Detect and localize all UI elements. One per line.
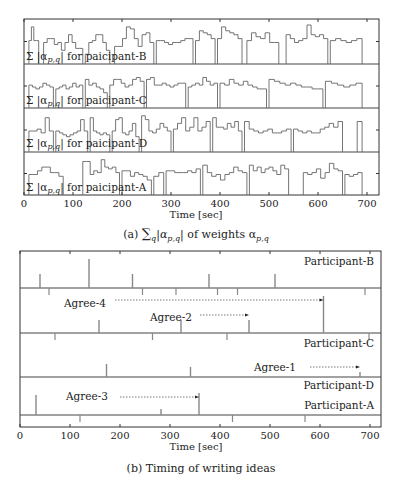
arrow-head-icon [245, 314, 249, 317]
step-series-participant-A [166, 169, 200, 195]
step-series-participant-A [345, 173, 362, 195]
step-series-participant-A [203, 165, 247, 195]
top-caption: (a) ∑q|αp,q| of weights αp,q [123, 226, 269, 243]
x-tick-label: 0 [21, 198, 27, 209]
agree-1-label: Agree-1 [253, 361, 296, 373]
agree-4-label: Agree-4 [63, 297, 106, 309]
x-tick-label: 400 [210, 198, 229, 209]
top-chart-weights: 0100200300400500600700 Σ |αp,q| for paic… [21, 19, 379, 243]
x-tick-label: 500 [260, 430, 279, 441]
step-series-participant-C [325, 81, 362, 108]
x-tick-label: 600 [308, 198, 327, 209]
x-tick-label: 700 [360, 430, 379, 441]
panel-label-participant-D: Σ |αp,q| for paicipant-D [26, 137, 147, 151]
step-series-participant-D [294, 122, 343, 153]
x-tick-label: 500 [259, 198, 278, 209]
step-series-participant-D [213, 118, 242, 152]
row-label-participant-C: Participant-C [304, 337, 374, 349]
x-tick-label: 400 [210, 430, 229, 441]
step-series-participant-A [249, 165, 288, 195]
step-series-participant-C [147, 78, 186, 109]
bottom-x-axis-label: Time [sec] [170, 441, 223, 452]
bottom-caption: (b) Timing of writing ideas [127, 462, 276, 475]
x-tick-label: 700 [357, 198, 376, 209]
panel-label-participant-C: Σ |αp,q| for paicipant-C [26, 94, 147, 108]
step-series-participant-C [269, 79, 323, 108]
top-x-axis-label: Time [sec] [170, 209, 223, 220]
row-label-participant-D: Participant-D [303, 379, 374, 391]
bottom-chart-timing: 0100200300400500600700 Participant-B Par… [17, 251, 381, 475]
step-series-participant-A [154, 173, 164, 195]
panel-label-participant-B: Σ |αp,q| for paicipant-B [26, 50, 147, 64]
step-series-participant-C [220, 79, 267, 108]
x-tick-label: 600 [310, 430, 329, 441]
panel-label-participant-A: Σ |αp,q| for paicipant-A [26, 181, 147, 195]
agree-2-label: Agree-2 [149, 311, 192, 323]
figure: 0100200300400500600700 Σ |αp,q| for paic… [0, 0, 403, 489]
x-tick-label: 300 [161, 198, 180, 209]
step-series-participant-D [245, 122, 292, 153]
step-series-participant-D [357, 122, 362, 153]
agree-3-label: Agree-3 [65, 390, 108, 402]
row-label-participant-A: Participant-A [304, 399, 374, 411]
step-series-participant-A [303, 163, 342, 195]
step-series-participant-B [286, 25, 328, 64]
x-tick-label: 300 [160, 430, 179, 441]
x-tick-label: 200 [110, 430, 129, 441]
row-label-participant-B: Participant-B [304, 255, 374, 267]
step-series-participant-C [188, 78, 217, 109]
x-tick-label: 100 [60, 430, 79, 441]
step-series-participant-D [173, 118, 210, 152]
x-tick-label: 100 [63, 198, 82, 209]
step-series-participant-B [330, 39, 362, 64]
step-series-participant-B [196, 31, 216, 64]
x-tick-label: 0 [17, 430, 23, 441]
arrow-head-icon [356, 366, 360, 369]
step-series-participant-B [218, 27, 243, 64]
step-series-participant-B [247, 33, 279, 64]
step-series-participant-B [156, 39, 193, 64]
x-tick-label: 200 [112, 198, 131, 209]
